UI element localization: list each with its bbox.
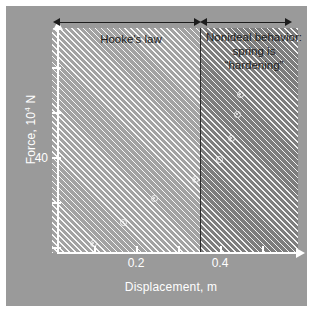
y-axis-title: Force, 104 N <box>23 60 38 200</box>
data-point <box>151 195 158 202</box>
x-axis-tick-label-02: 0.2 <box>116 256 156 270</box>
x-axis-tick <box>136 246 138 254</box>
x-axis-tick <box>220 246 222 254</box>
y-axis-tick <box>52 112 61 114</box>
chart-canvas: 40 0.2 0.4 Displacement, m Force, 104 N … <box>6 6 307 306</box>
data-point <box>228 135 235 142</box>
x-axis-tick-label-04: 0.4 <box>200 256 240 270</box>
y-axis-tick <box>52 157 61 159</box>
y-axis-tick <box>52 67 61 69</box>
y-axis-title-base: Force, 10 <box>24 112 38 165</box>
x-axis-tick <box>262 246 264 254</box>
region-divider <box>200 28 201 253</box>
data-point <box>216 156 223 163</box>
nonideal-annotation-line-1: Nonideal behavior: <box>204 30 304 44</box>
nonideal-annotation-line-3: “hardening” <box>204 58 304 72</box>
data-point <box>120 219 127 226</box>
hookes-law-annotation-label: Hooke's law <box>62 32 200 46</box>
data-point <box>234 111 241 118</box>
nonideal-arrow-line <box>206 22 286 23</box>
hookes-law-arrow-line <box>59 22 199 23</box>
data-point <box>192 176 199 183</box>
y-axis-title-exponent: 4 <box>23 107 32 112</box>
nonideal-arrow-right <box>285 18 292 26</box>
nonideal-annotation-label: Nonideal behavior: spring is “hardening” <box>204 30 304 72</box>
x-axis-tick <box>178 246 180 254</box>
x-axis-title-text: Displacement, m <box>125 280 217 294</box>
x-axis-arrowhead <box>296 248 305 258</box>
y-axis-tick <box>52 247 61 249</box>
chart-figure: 40 0.2 0.4 Displacement, m Force, 104 N … <box>0 0 313 312</box>
y-axis-line <box>57 28 59 254</box>
y-axis-title-unit: N <box>24 95 38 107</box>
x-axis-title: Displacement, m <box>56 280 286 294</box>
y-axis-tick <box>52 202 61 204</box>
data-point <box>237 91 244 98</box>
nonideal-annotation-line-2: spring is <box>204 44 304 58</box>
x-axis-tick <box>94 246 96 254</box>
